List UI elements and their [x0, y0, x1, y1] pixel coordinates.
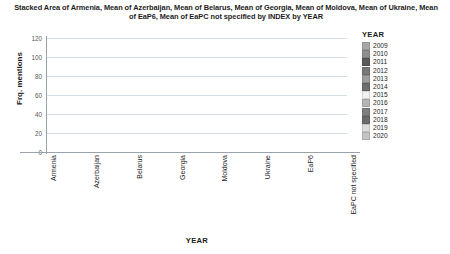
chart-title: Stacked Area of Armenia, Mean of Azerbai…: [14, 3, 438, 22]
legend-swatch-icon: [362, 108, 370, 116]
legend-item-label: 2010: [373, 50, 388, 58]
legend-item-2013[interactable]: 2013: [362, 75, 444, 83]
legend-item-label: 2013: [373, 75, 388, 83]
gridline: [47, 133, 347, 134]
x-tick-label: Georgia: [179, 155, 186, 180]
plot-area: [47, 38, 347, 152]
x-axis-labels: ArmeniaAzerbaijanBelarusGeorgiaMoldovaUk…: [47, 155, 347, 227]
gridline: [47, 76, 347, 77]
x-axis-line: [20, 152, 360, 153]
legend-item-label: 2020: [373, 132, 388, 140]
legend-item-label: 2018: [373, 116, 388, 124]
x-tick-label: Armenia: [50, 155, 57, 181]
gridline: [47, 114, 347, 115]
y-tick-label: 40: [12, 111, 42, 118]
legend-item-2009[interactable]: 2009: [362, 42, 444, 50]
legend-item-2014[interactable]: 2014: [362, 83, 444, 91]
legend-swatch-icon: [362, 99, 370, 107]
legend-swatch-icon: [362, 91, 370, 99]
y-tick-label: 120: [12, 35, 42, 42]
legend-item-2012[interactable]: 2012: [362, 67, 444, 75]
y-tick-label: 60: [12, 92, 42, 99]
legend-item-label: 2016: [373, 99, 388, 107]
legend-swatch-icon: [362, 83, 370, 91]
legend-item-2018[interactable]: 2018: [362, 116, 444, 124]
x-tick-label: Ukraine: [264, 155, 271, 179]
x-tick-label: Belarus: [136, 155, 143, 179]
legend-item-2017[interactable]: 2017: [362, 108, 444, 116]
legend-swatch-icon: [362, 132, 370, 140]
legend-title: YEAR: [362, 30, 444, 39]
legend-item-2019[interactable]: 2019: [362, 124, 444, 132]
x-tick-label: EaP6: [307, 155, 314, 172]
y-tick-label: 80: [12, 73, 42, 80]
legend-item-2011[interactable]: 2011: [362, 58, 444, 66]
legend-item-label: 2012: [373, 67, 388, 75]
legend-item-2010[interactable]: 2010: [362, 50, 444, 58]
legend-swatch-icon: [362, 124, 370, 132]
x-axis-title: YEAR: [47, 236, 347, 245]
legend-swatch-icon: [362, 50, 370, 58]
gridline: [47, 38, 347, 39]
legend-item-2015[interactable]: 2015: [362, 91, 444, 99]
legend-items: 2009201020112012201320142015201620172018…: [356, 42, 444, 140]
legend-swatch-icon: [362, 75, 370, 83]
y-tick-label: 100: [12, 54, 42, 61]
x-tick-label: Moldova: [221, 155, 228, 181]
legend-swatch-icon: [362, 116, 370, 124]
x-tick-label: EaPC not specified: [350, 155, 357, 215]
legend-item-label: 2017: [373, 108, 388, 116]
gridline: [47, 57, 347, 58]
chart-container: Stacked Area of Armenia, Mean of Azerbai…: [0, 0, 450, 254]
y-axis-line: [46, 36, 47, 154]
legend-swatch-icon: [362, 42, 370, 50]
legend: YEAR 20092010201120122013201420152016201…: [356, 30, 444, 140]
legend-item-label: 2009: [373, 42, 388, 50]
legend-swatch-icon: [362, 58, 370, 66]
legend-swatch-icon: [362, 67, 370, 75]
x-tick-label: Azerbaijan: [93, 155, 100, 188]
y-axis-ticks: 020406080100120: [8, 38, 42, 152]
y-tick-label: 20: [12, 130, 42, 137]
legend-item-label: 2019: [373, 124, 388, 132]
legend-item-2016[interactable]: 2016: [362, 99, 444, 107]
legend-item-label: 2011: [373, 58, 387, 66]
legend-item-2020[interactable]: 2020: [362, 132, 444, 140]
gridline: [47, 95, 347, 96]
legend-item-label: 2015: [373, 91, 388, 99]
legend-item-label: 2014: [373, 83, 388, 91]
